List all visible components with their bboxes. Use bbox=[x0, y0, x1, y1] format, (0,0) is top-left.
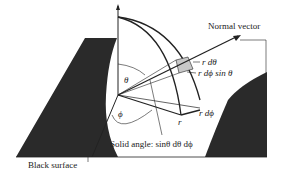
phi-label: ϕ bbox=[118, 110, 123, 119]
normal-vector-label: Normal vector bbox=[208, 22, 260, 31]
black-surface-left bbox=[16, 38, 118, 157]
theta-label: θ bbox=[124, 76, 128, 85]
black-surface-right bbox=[205, 72, 267, 157]
r-label: r bbox=[178, 118, 182, 127]
r-dtheta-label: r dθ bbox=[202, 58, 217, 67]
black-surface-label: Black surface bbox=[28, 161, 77, 170]
r-dphi-sin-theta-label: r dϕ sin θ bbox=[198, 69, 232, 78]
solid-angle-label: Solid angle: sinθ dθ dϕ bbox=[110, 140, 193, 149]
r-dphi-label: r dϕ bbox=[199, 109, 214, 118]
